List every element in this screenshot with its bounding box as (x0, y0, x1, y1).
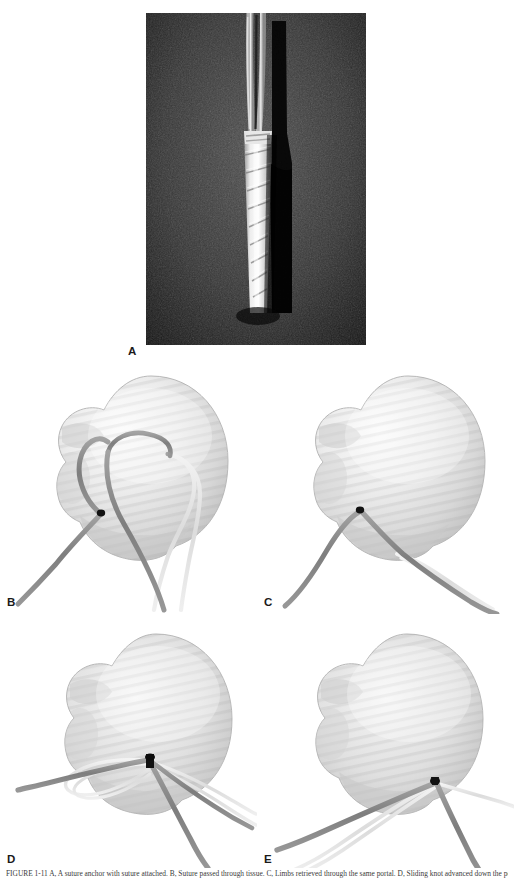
panel-d (0, 620, 257, 868)
panel-b (0, 366, 257, 614)
panel-label-d: D (7, 854, 16, 866)
anchor-point-c (356, 507, 364, 514)
humeral-head-bone-d (46, 620, 256, 830)
panel-a-photograph (146, 13, 366, 345)
suture-anchor-photograph-graphic (146, 13, 366, 345)
panel-label-c: C (264, 597, 273, 609)
panel-label-b: B (7, 597, 16, 609)
figure-page: A (0, 0, 514, 878)
light-suture-limb-e3 (439, 784, 514, 807)
panel-label-e: E (264, 854, 272, 866)
knot-e (431, 777, 439, 785)
panel-a (146, 13, 366, 345)
panel-label-a: A (128, 346, 137, 358)
dark-suture-tail-b (18, 514, 101, 604)
humeral-head-illustration-b (0, 366, 257, 614)
figure-caption: FIGURE 1-11 A, A suture anchor with sutu… (6, 869, 508, 878)
anchor-point-b (97, 510, 105, 517)
anchor-point-d (145, 753, 155, 760)
panel-c (257, 366, 514, 614)
humeral-head-illustration-c (257, 366, 514, 614)
humeral-head-illustration-d (0, 620, 257, 868)
humeral-head-illustration-e (257, 620, 514, 868)
panel-e (257, 620, 514, 868)
suture-pass-point-b (165, 452, 170, 456)
